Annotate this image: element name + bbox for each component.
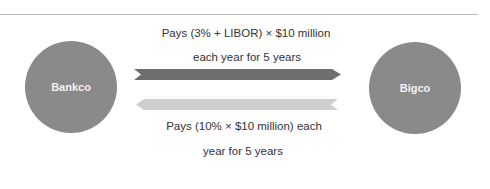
arrow-left-icon (136, 99, 338, 110)
flow1-label-line1: Pays (3% + LIBOR) × $10 million (162, 27, 331, 39)
flow2-label-line2: year for 5 years (203, 145, 283, 157)
flow1-label-line2: each year for 5 years (193, 51, 301, 63)
flow2-label-line1: Pays (10% × $10 million) each (166, 120, 322, 132)
arrow-right-icon (134, 69, 341, 80)
